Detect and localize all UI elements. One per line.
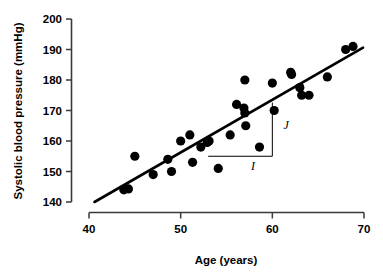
data-point [255, 143, 264, 152]
data-point [226, 130, 235, 139]
data-point [268, 78, 277, 87]
y-axis-tick-labels: 140150160170180190200 [43, 13, 62, 208]
y-axis-tick-label: 140 [43, 196, 62, 208]
y-axis-tick-label: 190 [43, 44, 62, 56]
data-point [323, 72, 332, 81]
y-axis-title: Systolic blood pressure (mmHg) [12, 22, 24, 199]
data-point [124, 184, 133, 193]
x-axis-tick-label: 50 [174, 223, 187, 235]
data-point [130, 152, 139, 161]
data-point [295, 83, 304, 92]
data-point [304, 91, 313, 100]
y-axis-tick-label: 180 [43, 74, 62, 86]
x-axis-ticks [89, 213, 364, 219]
y-axis-ticks [66, 19, 72, 202]
data-point [176, 136, 185, 145]
y-axis-tick-label: 200 [43, 13, 62, 25]
x-axis-tick-label: 70 [358, 223, 371, 235]
data-point [240, 108, 249, 117]
data-point [240, 75, 249, 84]
data-point [149, 170, 158, 179]
rise-segment-label: J [283, 118, 289, 132]
x-axis-tick-label: 40 [83, 223, 96, 235]
y-axis-tick-label: 170 [43, 105, 62, 117]
x-axis: 40506070 [83, 213, 371, 236]
run-segment-label: I [250, 159, 256, 173]
data-point [241, 121, 250, 130]
y-axis-tick-label: 160 [43, 135, 62, 147]
data-point [188, 158, 197, 167]
chart-canvas: 140150160170180190200 40506070 IJ Age (y… [0, 0, 383, 273]
data-point [348, 42, 357, 51]
data-point [167, 167, 176, 176]
x-axis-title: Age (years) [195, 254, 258, 266]
y-axis: 140150160170180190200 [43, 13, 72, 208]
data-point [214, 164, 223, 173]
data-point [163, 155, 172, 164]
x-axis-tick-labels: 40506070 [83, 223, 371, 235]
data-point [185, 130, 194, 139]
regression-line [95, 48, 364, 202]
scatter-plot-figure: 140150160170180190200 40506070 IJ Age (y… [0, 0, 383, 273]
data-point [287, 70, 296, 79]
data-point [204, 136, 213, 145]
x-axis-tick-label: 60 [266, 223, 279, 235]
y-axis-tick-label: 150 [43, 166, 62, 178]
data-point [270, 106, 279, 115]
